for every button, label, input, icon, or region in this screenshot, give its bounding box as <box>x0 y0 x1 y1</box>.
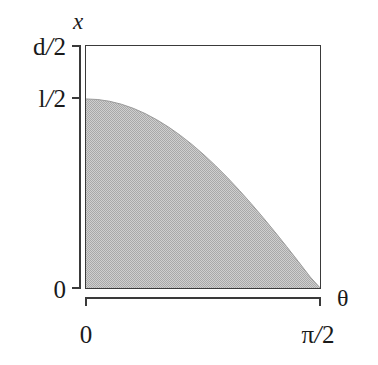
cosine-region-plot <box>86 46 321 289</box>
fraction-slash-icon: / <box>46 85 54 112</box>
x-axis-tick-pi-over-2 <box>319 297 321 306</box>
y-tick-label-d-over-2: d/2 <box>8 34 66 59</box>
shaded-region <box>86 99 321 289</box>
x-tick-pi-numerator: π <box>301 321 314 348</box>
y-tick-d-numerator: d <box>33 33 46 60</box>
y-axis-spine <box>79 45 81 289</box>
figure-canvas: x d/2 l/2 0 θ 0 π/2 <box>0 0 378 365</box>
x-axis-spine <box>85 297 321 299</box>
x-tick-label-zero: 0 <box>80 322 93 347</box>
x-tick-pi-denominator: 2 <box>322 321 335 348</box>
x-tick-label-pi-over-2: π/2 <box>301 322 334 347</box>
plot-area <box>85 45 321 289</box>
y-axis-title: x <box>73 10 83 33</box>
y-axis-tick-zero <box>72 287 81 289</box>
fraction-slash-icon: / <box>46 33 54 60</box>
y-tick-label-l-over-2: l/2 <box>8 86 66 111</box>
y-tick-label-zero: 0 <box>8 277 66 302</box>
x-axis-title: θ <box>337 286 349 310</box>
x-axis-tick-zero <box>85 297 87 306</box>
fraction-slash-icon: / <box>314 321 322 348</box>
y-tick-l-numerator: l <box>39 85 46 112</box>
y-axis <box>72 45 81 289</box>
y-axis-tick-d-over-2 <box>72 45 81 47</box>
y-axis-tick-l-over-2 <box>72 97 81 99</box>
y-tick-l-denominator: 2 <box>54 85 67 112</box>
y-tick-d-denominator: 2 <box>54 33 67 60</box>
x-axis <box>85 297 321 306</box>
